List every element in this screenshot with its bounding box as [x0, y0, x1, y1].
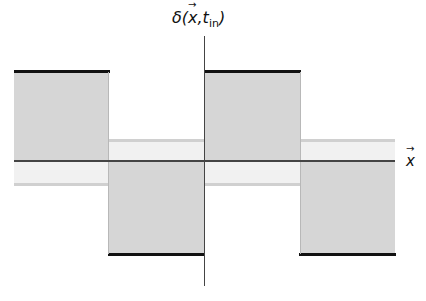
segment-1-offset-edge — [14, 183, 109, 186]
segment-2-bottom-line — [108, 253, 205, 256]
y-axis-label: δ( x → ,tin) — [172, 8, 225, 30]
segment-3-offset-edge — [205, 183, 300, 186]
segment-4-offset-edge — [300, 139, 395, 142]
segment-4-bottom-line — [299, 253, 396, 256]
y-label-delta: δ( — [172, 8, 188, 27]
y-label-sub: in — [209, 17, 219, 30]
segment-3-fill — [205, 72, 300, 161]
y-axis — [204, 36, 205, 286]
segment-1-offset-band — [14, 162, 109, 184]
boundary-1 — [108, 72, 109, 254]
y-label-x: x — [188, 8, 197, 27]
vector-arrow-icon: → — [188, 0, 196, 10]
segment-3-top-line — [204, 70, 301, 73]
boundary-3 — [300, 72, 301, 254]
segment-2-offset-edge — [109, 139, 204, 142]
segment-4-fill — [300, 161, 395, 254]
segment-1-top-line — [14, 70, 110, 73]
x-axis-label: x → — [406, 152, 415, 170]
segment-1-fill — [14, 72, 109, 161]
segment-2-fill — [109, 161, 204, 254]
segment-2-offset-band — [109, 140, 204, 161]
segment-3-offset-band — [205, 162, 300, 184]
segment-4-offset-band — [300, 140, 395, 161]
vector-arrow-icon: → — [406, 143, 414, 154]
x-label-text: x — [406, 152, 415, 170]
y-label-close: ) — [219, 8, 225, 27]
